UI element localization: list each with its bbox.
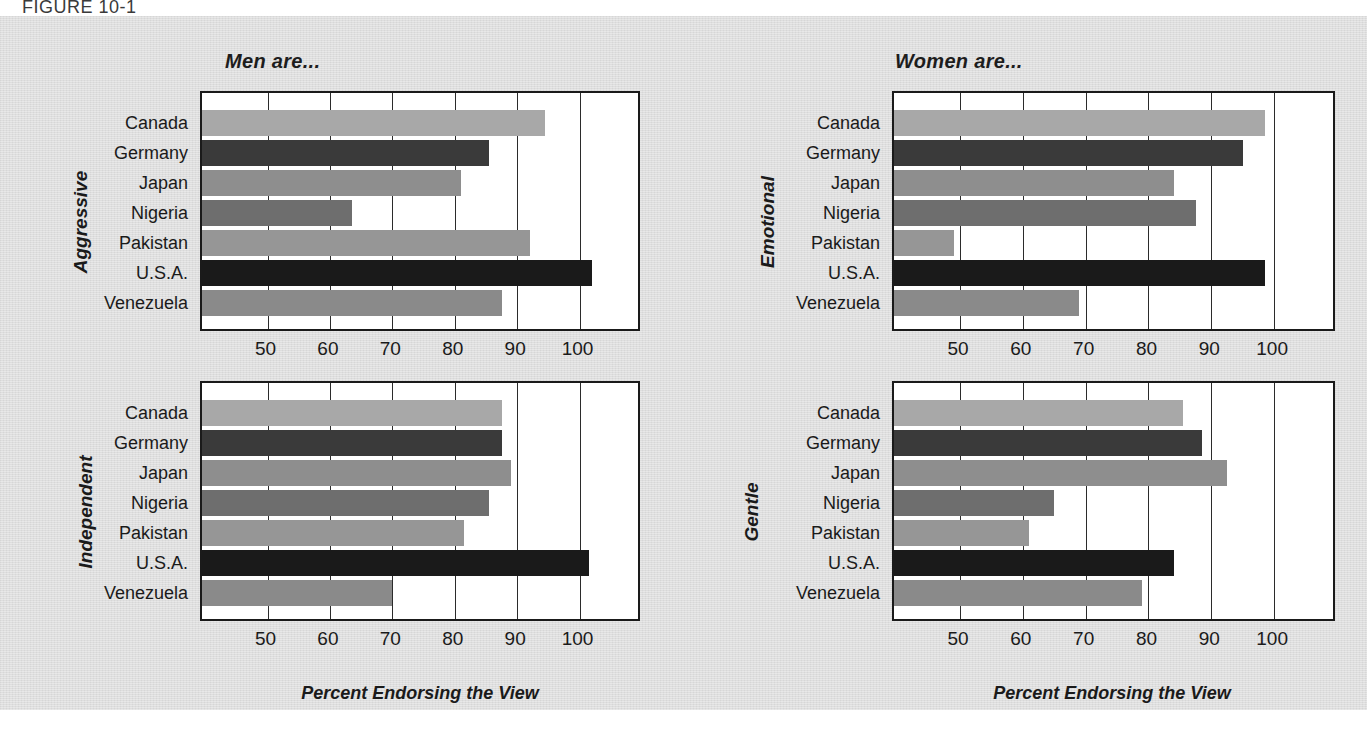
x-tick-label: 90: [505, 628, 526, 650]
x-tick-label: 50: [947, 338, 968, 360]
x-tick-label: 60: [1010, 338, 1031, 360]
x-axis-title-right: Percent Endorsing the View: [993, 683, 1230, 704]
column-title-women: Women are...: [895, 50, 1023, 73]
bar-germany: [894, 140, 1243, 166]
bar-group: [202, 383, 638, 619]
category-label: Canada: [125, 114, 188, 132]
bar-usa: [894, 550, 1174, 576]
bar-canada: [894, 110, 1265, 136]
x-tick-label: 80: [442, 338, 463, 360]
column-title-men: Men are...: [225, 50, 320, 73]
category-label: Venezuela: [796, 584, 880, 602]
x-tick-label: 50: [255, 338, 276, 360]
category-label: Nigeria: [131, 494, 188, 512]
category-label: Germany: [114, 144, 188, 162]
x-tick-label: 100: [562, 628, 594, 650]
category-label: Pakistan: [119, 524, 188, 542]
x-tick-label: 50: [947, 628, 968, 650]
category-label: Japan: [139, 174, 188, 192]
x-tick-label: 90: [505, 338, 526, 360]
bar-venezuela: [202, 290, 502, 316]
category-label: Germany: [114, 434, 188, 452]
bar-group: [894, 93, 1333, 329]
category-label: U.S.A.: [828, 264, 880, 282]
bar-nigeria: [202, 490, 489, 516]
x-tick-label: 70: [380, 628, 401, 650]
x-tick-label: 90: [1199, 338, 1220, 360]
figure-panel: Men are... Women are... CanadaGermanyJap…: [0, 16, 1367, 710]
category-label: Nigeria: [131, 204, 188, 222]
y-axis-title: Gentle: [741, 482, 763, 541]
plot-area: [892, 91, 1335, 331]
x-axis-title-left: Percent Endorsing the View: [301, 683, 538, 704]
bar-pakistan: [894, 520, 1029, 546]
category-label: Germany: [806, 144, 880, 162]
bar-germany: [202, 140, 489, 166]
y-axis-title: Aggressive: [70, 171, 92, 273]
bar-pakistan: [202, 520, 464, 546]
x-tick-label: 80: [442, 628, 463, 650]
plot-area: [200, 381, 640, 621]
x-tick-label: 60: [317, 628, 338, 650]
category-label: Japan: [831, 464, 880, 482]
category-label: Canada: [125, 404, 188, 422]
category-label: Nigeria: [823, 494, 880, 512]
plot-area: [892, 381, 1335, 621]
x-tick-label: 80: [1136, 628, 1157, 650]
x-tick-label: 100: [562, 338, 594, 360]
category-label: Pakistan: [811, 524, 880, 542]
bar-nigeria: [894, 200, 1196, 226]
category-label: Japan: [831, 174, 880, 192]
y-axis-title: Independent: [75, 456, 97, 569]
bar-japan: [202, 170, 461, 196]
bar-group: [202, 93, 638, 329]
bar-germany: [202, 430, 502, 456]
bar-usa: [202, 550, 589, 576]
bar-usa: [894, 260, 1265, 286]
category-label: Nigeria: [823, 204, 880, 222]
bar-nigeria: [894, 490, 1054, 516]
category-label: Japan: [139, 464, 188, 482]
x-tick-label: 70: [1073, 628, 1094, 650]
category-label: Pakistan: [811, 234, 880, 252]
bar-japan: [894, 460, 1227, 486]
bar-venezuela: [202, 580, 392, 606]
y-axis-title: Emotional: [757, 176, 779, 268]
x-tick-label: 50: [255, 628, 276, 650]
x-tick-label: 80: [1136, 338, 1157, 360]
category-label: Canada: [817, 114, 880, 132]
x-tick-label: 100: [1256, 628, 1288, 650]
bar-venezuela: [894, 290, 1079, 316]
bar-venezuela: [894, 580, 1142, 606]
category-label: Canada: [817, 404, 880, 422]
x-tick-label: 100: [1256, 338, 1288, 360]
bar-usa: [202, 260, 592, 286]
category-label: Venezuela: [104, 294, 188, 312]
category-label: U.S.A.: [828, 554, 880, 572]
bar-canada: [202, 110, 545, 136]
bar-canada: [894, 400, 1183, 426]
bar-japan: [202, 460, 511, 486]
bar-group: [894, 383, 1333, 619]
x-tick-label: 60: [1010, 628, 1031, 650]
bar-nigeria: [202, 200, 352, 226]
category-label: U.S.A.: [136, 554, 188, 572]
bar-japan: [894, 170, 1174, 196]
category-label: U.S.A.: [136, 264, 188, 282]
x-tick-label: 70: [1073, 338, 1094, 360]
bar-canada: [202, 400, 502, 426]
plot-area: [200, 91, 640, 331]
category-label: Pakistan: [119, 234, 188, 252]
x-tick-label: 70: [380, 338, 401, 360]
x-tick-label: 60: [317, 338, 338, 360]
category-label: Venezuela: [796, 294, 880, 312]
category-label: Venezuela: [104, 584, 188, 602]
category-label: Germany: [806, 434, 880, 452]
bar-germany: [894, 430, 1202, 456]
bar-pakistan: [894, 230, 954, 256]
bar-pakistan: [202, 230, 530, 256]
x-tick-label: 90: [1199, 628, 1220, 650]
